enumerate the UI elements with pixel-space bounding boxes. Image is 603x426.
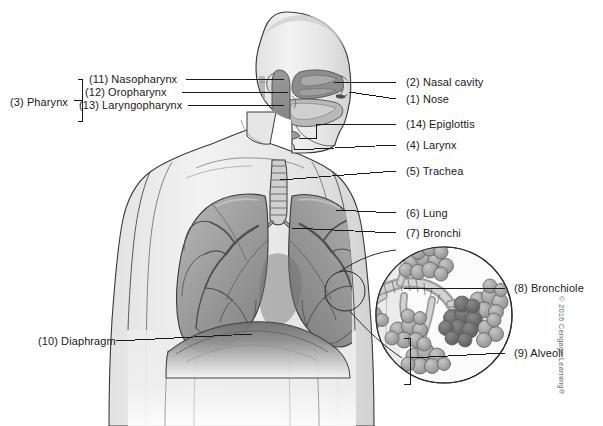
- label-oropharynx: (12) Oropharynx: [85, 86, 167, 98]
- copyright-notice: © 2016 Cengage Learning®: [557, 296, 566, 394]
- label-trachea: (5) Trachea: [406, 165, 463, 177]
- label-bronchiole: (8) Bronchiole: [514, 282, 584, 294]
- label-nose: (1) Nose: [406, 93, 449, 105]
- label-diaphragm: (10) Diaphragm: [38, 335, 116, 347]
- label-laryngopharynx: (13) Laryngopharynx: [79, 99, 182, 111]
- respiratory-system-figure: (3) Pharynx (11) Nasopharynx (12) Oropha…: [0, 0, 603, 426]
- label-alveoli: (9) Alveoli: [514, 347, 563, 359]
- anatomy-illustration: [0, 0, 603, 426]
- label-nasal-cavity: (2) Nasal cavity: [406, 76, 483, 88]
- label-epiglottis: (14) Epiglottis: [406, 118, 475, 130]
- label-pharynx: (3) Pharynx: [10, 96, 68, 108]
- leader-nose: [349, 92, 396, 99]
- label-nasopharynx: (11) Nasopharynx: [89, 73, 177, 85]
- label-larynx: (4) Larynx: [406, 139, 457, 151]
- label-bronchi: (7) Bronchi: [406, 227, 461, 239]
- label-lung: (6) Lung: [406, 207, 448, 219]
